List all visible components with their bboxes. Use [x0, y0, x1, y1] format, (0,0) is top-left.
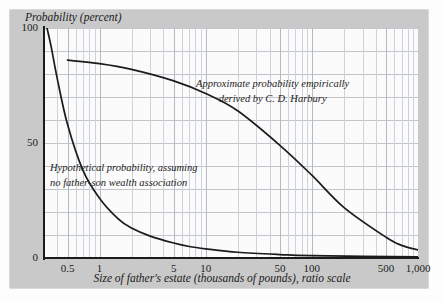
y-tick-label: 50 [8, 136, 38, 148]
annotation-hypothetical-line-1: Hypothetical probability, assuming [50, 160, 197, 175]
x-axis-line [43, 257, 419, 259]
curve-hypothetical [47, 28, 418, 257]
curves-layer [44, 28, 418, 258]
y-tick-label: 0 [8, 251, 38, 263]
annotation-hypothetical: Hypothetical probability, assuming no fa… [50, 160, 197, 190]
annotation-empirical: Approximate probability empirically deri… [196, 76, 349, 106]
plot-panel [44, 28, 418, 258]
x-axis-title: Size of father's estate (thousands of po… [0, 272, 444, 284]
figure-container: Probability (percent) 050100 0.515105010… [0, 0, 444, 302]
annotation-hypothetical-line-2: no father-son wealth association [50, 175, 197, 190]
y-axis-line [43, 26, 45, 260]
y-axis-title: Probability (percent) [25, 11, 122, 23]
y-tick-label: 100 [8, 21, 38, 33]
annotation-empirical-line-2: derived by C. D. Harbury [196, 91, 349, 106]
annotation-empirical-line-1: Approximate probability empirically [196, 76, 349, 91]
